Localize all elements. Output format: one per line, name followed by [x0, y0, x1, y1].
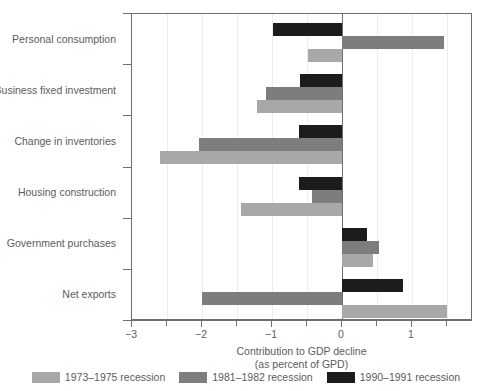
y-axis-tick: [123, 13, 132, 14]
y-axis-tick: [123, 64, 132, 65]
x-axis-line: [131, 320, 472, 321]
y-axis-tick: [123, 218, 132, 219]
y-axis-label: Business fixed investment: [0, 84, 116, 96]
plot-area: [131, 13, 472, 320]
bar: [342, 36, 444, 49]
y-axis-label: Personal consumption: [12, 33, 116, 45]
bar: [273, 23, 342, 36]
x-axis-tick: [306, 320, 307, 326]
x-axis-tick: [236, 320, 237, 326]
x-axis-tick: [376, 320, 377, 326]
category-group: [132, 270, 471, 321]
legend-item: 1990–1991 recession: [327, 371, 460, 383]
bar: [160, 151, 342, 164]
y-axis-label: Housing construction: [18, 186, 116, 198]
bar: [300, 74, 342, 87]
bar: [299, 125, 342, 138]
x-axis-tick: [411, 320, 412, 327]
bar: [241, 203, 342, 216]
legend-label: 1990–1991 recession: [360, 371, 460, 383]
category-group: [132, 65, 471, 116]
y-axis-tick: [123, 269, 132, 270]
x-axis-tick: [201, 320, 202, 327]
y-axis-label: Net exports: [62, 288, 116, 300]
x-axis-tick-label: 1: [391, 328, 431, 340]
y-axis-tick: [123, 167, 132, 168]
bar: [312, 190, 342, 203]
x-axis-tick: [341, 320, 342, 327]
x-axis-title-line1: Contribution to GDP decline: [131, 345, 472, 358]
bar: [199, 138, 342, 151]
bar: [342, 305, 447, 318]
bar: [342, 228, 367, 241]
category-group: [132, 14, 471, 65]
bar: [266, 87, 342, 100]
bar: [308, 49, 342, 62]
legend-swatch: [32, 372, 60, 383]
bar: [299, 177, 342, 190]
legend-swatch: [327, 372, 355, 383]
x-axis-tick-label: −2: [181, 328, 221, 340]
legend-swatch: [179, 372, 207, 383]
legend: 1973–1975 recession1981–1982 recession19…: [0, 371, 492, 383]
bar: [257, 100, 342, 113]
bar: [342, 254, 373, 267]
category-group: [132, 116, 471, 167]
x-axis-tick-label: −3: [111, 328, 151, 340]
x-axis-title-line2: (as percent of GPD): [131, 358, 472, 371]
bar: [202, 292, 342, 305]
category-group: [132, 168, 471, 219]
bar: [342, 241, 379, 254]
x-axis-tick: [131, 320, 132, 327]
y-axis-tick: [123, 115, 132, 116]
x-axis-tick: [446, 320, 447, 326]
x-axis-tick: [271, 320, 272, 327]
x-axis-tick: [166, 320, 167, 326]
legend-item: 1981–1982 recession: [179, 371, 312, 383]
y-axis-label: Change in inventories: [14, 135, 116, 147]
bar-chart: Personal consumptionBusiness fixed inves…: [0, 0, 492, 391]
x-axis-tick-label: 0: [321, 328, 361, 340]
bar: [342, 279, 403, 292]
category-group: [132, 219, 471, 270]
x-axis-title: Contribution to GDP decline (as percent …: [131, 345, 472, 371]
legend-item: 1973–1975 recession: [32, 371, 165, 383]
y-axis-label: Government purchases: [7, 237, 116, 249]
legend-label: 1973–1975 recession: [65, 371, 165, 383]
x-axis-tick-label: −1: [251, 328, 291, 340]
legend-label: 1981–1982 recession: [212, 371, 312, 383]
